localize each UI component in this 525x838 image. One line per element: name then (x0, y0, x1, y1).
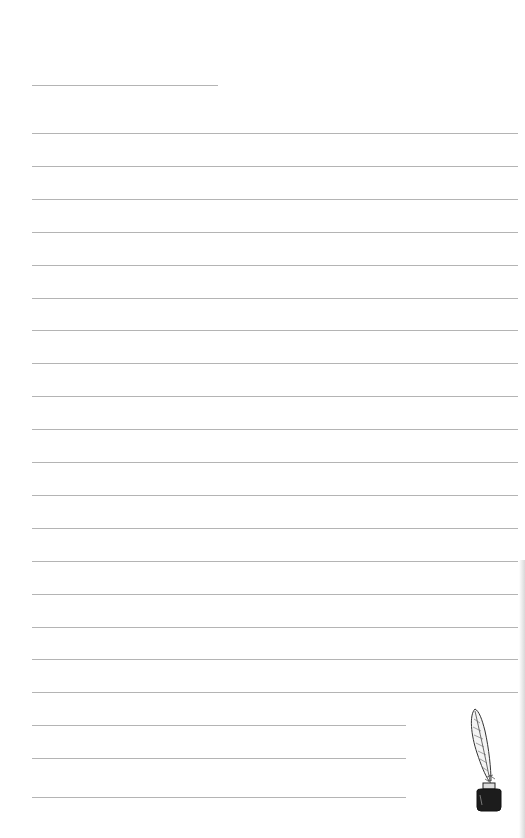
writing-line (32, 528, 518, 529)
short-writing-line (32, 758, 406, 759)
quill-inkwell-icon (465, 705, 507, 815)
writing-line (32, 659, 518, 660)
short-writing-line (32, 797, 406, 798)
writing-line (32, 462, 518, 463)
short-writing-line (32, 725, 406, 726)
writing-line (32, 429, 518, 430)
writing-line (32, 692, 518, 693)
writing-line (32, 363, 518, 364)
writing-line (32, 627, 518, 628)
writing-line (32, 330, 518, 331)
writing-line (32, 133, 518, 134)
page-edge-shadow (519, 560, 525, 838)
writing-line (32, 495, 518, 496)
writing-line (32, 396, 518, 397)
writing-line (32, 199, 518, 200)
writing-line (32, 561, 518, 562)
writing-line (32, 594, 518, 595)
lined-paper-page (0, 0, 525, 838)
writing-line (32, 166, 518, 167)
writing-line (32, 265, 518, 266)
writing-line (32, 298, 518, 299)
writing-line (32, 232, 518, 233)
title-line (32, 85, 218, 86)
